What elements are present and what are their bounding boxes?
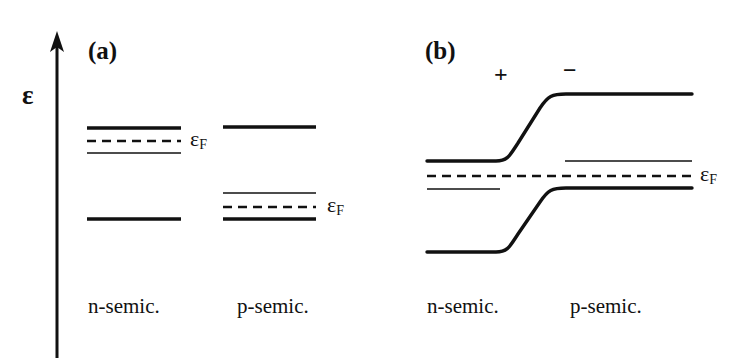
panel-a-p-semic-levels xyxy=(223,127,316,219)
fermi-subscript-a-n: F xyxy=(199,137,207,152)
positive-space-charge-label: + xyxy=(494,62,508,86)
fermi-label-panel-a-n: εF xyxy=(190,128,207,152)
fermi-epsilon-a-p: ε xyxy=(327,192,336,217)
material-label-n-semic-a: n-semic. xyxy=(88,296,160,317)
material-label-p-semic-b: p-semic. xyxy=(570,296,642,317)
negative-space-charge-label: − xyxy=(563,58,577,82)
valence-band-bent-b xyxy=(427,188,692,252)
fermi-label-panel-a-p: εF xyxy=(327,194,344,218)
fermi-subscript-a-p: F xyxy=(336,203,344,218)
fermi-epsilon-a-n: ε xyxy=(190,126,199,151)
fermi-label-panel-b: εF xyxy=(700,163,717,187)
fermi-epsilon-b: ε xyxy=(700,161,709,186)
energy-axis xyxy=(50,31,64,358)
panel-b-junction-bands xyxy=(427,94,692,252)
material-label-n-semic-b: n-semic. xyxy=(427,296,499,317)
fermi-subscript-b: F xyxy=(709,172,717,187)
material-label-p-semic-a: p-semic. xyxy=(237,296,309,317)
panel-b-tag: (b) xyxy=(425,38,456,63)
panel-a-tag: (a) xyxy=(88,38,117,63)
conduction-band-bent-b xyxy=(427,94,692,161)
panel-a-n-semic-levels xyxy=(87,128,181,219)
energy-axis-label: ε xyxy=(22,82,34,109)
band-diagram-figure: ε (a) (b) εF εF εF + − n-semic. p-semic.… xyxy=(0,0,731,364)
